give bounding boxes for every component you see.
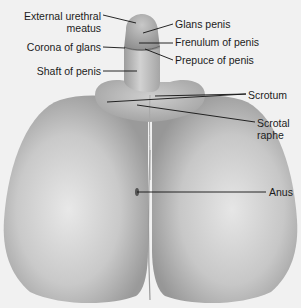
label-scrotal-raphe: Scrotalraphe (257, 117, 297, 141)
label-prepuce-of-penis: Prepuce of penis (175, 54, 285, 66)
buttocks (4, 95, 298, 303)
label-line1: Glans penis (175, 18, 275, 30)
label-line1: External urethral (2, 10, 101, 22)
label-line1: Prepuce of penis (175, 54, 285, 66)
label-line2: raphe (257, 129, 297, 141)
label-scrotum: Scrotum (248, 89, 298, 101)
label-line1: Frenulum of penis (175, 36, 285, 48)
label-line1: Scrotum (248, 89, 298, 101)
label-corona-of-glans: Corona of glans (2, 41, 101, 53)
label-line1: Corona of glans (2, 41, 101, 53)
label-line1: Scrotal (257, 117, 297, 129)
label-line1: Shaft of penis (2, 65, 101, 77)
label-external-urethral-meatus: External urethralmeatus (2, 10, 101, 34)
leader-corona-of-glans (103, 47, 125, 48)
label-line1: Anus (269, 186, 299, 198)
label-frenulum-of-penis: Frenulum of penis (175, 36, 285, 48)
label-shaft-of-penis: Shaft of penis (2, 65, 101, 77)
label-anus: Anus (269, 186, 299, 198)
label-glans-penis: Glans penis (175, 18, 275, 30)
label-line2: meatus (2, 22, 101, 34)
